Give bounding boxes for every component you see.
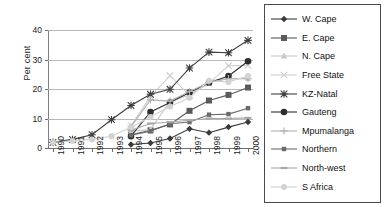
x-tick-label: 2000 (252, 136, 261, 155)
x-tick-label: 1992 (96, 136, 105, 155)
legend-label: S Africa (299, 182, 333, 192)
legend-item-n-cape[interactable]: N. Cape (269, 47, 377, 66)
x-tick-mark (112, 149, 113, 152)
legend-item-s-africa[interactable]: S Africa (269, 177, 377, 196)
x-tick-label: 1994 (135, 136, 144, 155)
legend-marker-icon (269, 161, 299, 175)
legend-item-north-west[interactable]: North-west (269, 159, 377, 178)
legend-label: Gauteng (299, 107, 337, 117)
x-tick-mark (151, 149, 152, 152)
series-lines (48, 30, 253, 148)
chart-screenshot: Per cent 0102030401990199119921993199419… (0, 0, 385, 207)
legend-marker-icon (269, 105, 299, 119)
x-tick-mark (73, 149, 74, 152)
y-tick-mark (45, 30, 48, 31)
legend-label: E. Cape (299, 33, 335, 43)
legend-marker-icon (269, 142, 299, 156)
x-tick-mark (131, 149, 132, 152)
y-tick-label: 0 (22, 144, 42, 153)
legend-item-northern[interactable]: Northern (269, 140, 377, 159)
x-tick-label: 1993 (116, 136, 125, 155)
legend-item-free-state[interactable]: Free State (269, 66, 377, 85)
legend-marker-icon (269, 31, 299, 45)
y-tick-mark (45, 89, 48, 90)
legend-label: Free State (299, 70, 344, 80)
legend: W. CapeE. CapeN. CapeFree StateKZ-NatalG… (264, 4, 381, 203)
x-tick-label: 1998 (213, 136, 222, 155)
legend-marker-icon (269, 180, 299, 194)
y-tick-label: 30 (22, 56, 42, 65)
x-tick-label: 1999 (233, 136, 242, 155)
x-tick-label: 1997 (194, 136, 203, 155)
y-tick-mark (45, 60, 48, 61)
legend-item-kz-natal[interactable]: KZ-Natal (269, 84, 377, 103)
x-tick-label: 1991 (77, 136, 86, 155)
x-tick-mark (170, 149, 171, 152)
legend-marker-icon (269, 49, 299, 63)
x-tick-mark (229, 149, 230, 152)
legend-item-gauteng[interactable]: Gauteng (269, 103, 377, 122)
x-tick-mark (209, 149, 210, 152)
legend-item-mpumalanga[interactable]: Mpumalanga (269, 122, 377, 141)
legend-label: North-west (299, 163, 346, 173)
legend-marker-icon (269, 87, 299, 101)
chart-area: Per cent 0102030401990199119921993199419… (0, 0, 262, 207)
legend-label: Northern (299, 144, 337, 154)
legend-marker-icon (269, 124, 299, 138)
legend-label: N. Cape (299, 51, 335, 61)
legend-item-e-cape[interactable]: E. Cape (269, 29, 377, 48)
x-tick-mark (92, 149, 93, 152)
legend-label: Mpumalanga (299, 126, 354, 136)
x-tick-mark (190, 149, 191, 152)
y-tick-label: 20 (22, 85, 42, 94)
x-tick-mark (53, 149, 54, 152)
x-tick-mark (248, 149, 249, 152)
legend-marker-icon (269, 68, 299, 82)
y-tick-mark (45, 119, 48, 120)
legend-item-w-cape[interactable]: W. Cape (269, 10, 377, 29)
legend-label: W. Cape (299, 14, 337, 24)
x-tick-label: 1996 (174, 136, 183, 155)
x-tick-label: 1995 (155, 136, 164, 155)
legend-label: KZ-Natal (299, 89, 338, 99)
legend-marker-icon (269, 12, 299, 26)
x-tick-label: 1990 (57, 136, 66, 155)
y-tick-label: 40 (22, 26, 42, 35)
y-tick-label: 10 (22, 115, 42, 124)
y-tick-mark (45, 148, 48, 149)
